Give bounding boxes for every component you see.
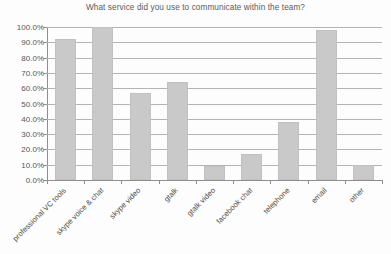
chart-title: What service did you use to communicate … <box>0 3 391 12</box>
x-axis-label: skype video <box>108 186 143 221</box>
x-axis-label: facebook chat <box>214 186 254 226</box>
x-axis-label: other <box>347 186 366 205</box>
x-tick-mark <box>159 180 160 184</box>
x-axis-label: gtalk <box>162 186 180 204</box>
bar-telephone <box>278 122 299 180</box>
bar-gtalk <box>167 82 188 180</box>
x-tick-mark <box>345 180 346 184</box>
plot-area <box>47 27 382 180</box>
x-axis-tick-marks <box>47 180 382 185</box>
x-axis-label: telephone <box>262 186 292 216</box>
x-tick-mark <box>196 180 197 184</box>
x-axis-label: gtalk video <box>185 186 217 218</box>
bar-other <box>353 165 374 180</box>
bar-skype-voice-chat <box>92 27 113 180</box>
x-tick-mark <box>270 180 271 184</box>
x-tick-mark <box>47 180 48 184</box>
x-tick-mark <box>233 180 234 184</box>
y-axis-tick-marks <box>0 27 47 180</box>
bar-chart: What service did you use to communicate … <box>0 0 391 254</box>
x-tick-mark <box>308 180 309 184</box>
x-tick-mark <box>84 180 85 184</box>
x-axis-label: email <box>309 186 328 205</box>
bar-skype-video <box>130 93 151 180</box>
bar-facebook-chat <box>241 154 262 180</box>
x-tick-mark <box>382 180 383 184</box>
bar-gtalk-video <box>204 166 225 180</box>
bar-professional-vc-tools <box>55 39 76 180</box>
bar-email <box>316 30 337 180</box>
x-tick-mark <box>121 180 122 184</box>
x-axis-tick-labels: professional VC toolsskype voice & chats… <box>0 186 391 252</box>
